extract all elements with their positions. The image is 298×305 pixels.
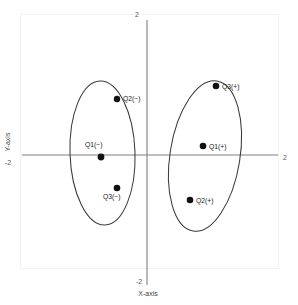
positive-cluster-ellipse [159, 75, 252, 236]
data-label-q1-negative: Q1(−) [85, 141, 103, 149]
tick-label-y-top: 2 [135, 11, 139, 18]
y-axis-label: Y-axis [4, 132, 11, 151]
plot-frame [21, 15, 279, 269]
data-point-q2-negative[interactable] [114, 96, 120, 102]
data-point-q1-negative[interactable] [98, 154, 105, 161]
data-point-q3-negative[interactable] [114, 185, 121, 192]
data-label-q2-positive: Q2(+) [196, 197, 214, 205]
tick-label-y-bottom: -2 [136, 278, 142, 285]
data-label-q1-positive: Q1(+) [209, 143, 227, 151]
data-point-q2-positive[interactable] [187, 197, 194, 204]
tick-label-x-right: 2 [283, 154, 287, 161]
data-label-q3-negative: Q3(−) [103, 193, 121, 201]
data-label-q3-positive: Q3(+) [222, 83, 240, 91]
data-point-q3-positive[interactable] [213, 83, 220, 90]
scatter-plot: Q2(−) Q1(−) Q3(−) Q3(+) Q1(+) Q2(+) 2 -2… [0, 0, 298, 305]
x-axis-label: X-axis [138, 290, 158, 297]
tick-label-x-left: -2 [5, 159, 11, 166]
data-label-q2-negative: Q2(−) [123, 95, 141, 103]
chart-canvas: Q2(−) Q1(−) Q3(−) Q3(+) Q1(+) Q2(+) 2 -2… [0, 0, 298, 305]
data-point-q1-positive[interactable] [200, 143, 207, 150]
